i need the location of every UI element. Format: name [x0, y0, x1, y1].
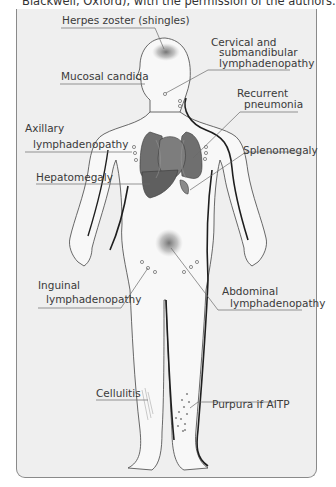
- label-axillary-line2: lymphadenopathy: [33, 138, 128, 151]
- label-cervical-line3: lymphadenopathy: [219, 57, 314, 70]
- label-inguinal-line2: lymphadenopathy: [46, 293, 141, 306]
- label-purpura: Purpura if AITP: [212, 398, 290, 411]
- label-herpes-zoster: Herpes zoster (shingles): [62, 14, 190, 27]
- abdominal-spot: [155, 229, 183, 257]
- label-pneumonia-line2: pneumonia: [244, 98, 303, 111]
- label-hepatomegaly: Hepatomegaly: [36, 171, 113, 184]
- label-mucosal-candida: Mucosal candida: [61, 70, 149, 83]
- herpes-zoster-spot: [152, 43, 180, 61]
- label-cellulitis: Cellulitis: [96, 387, 141, 400]
- label-abdominal-line2: lymphadenopathy: [230, 297, 325, 310]
- label-axillary-line1: Axillary: [25, 122, 64, 135]
- label-inguinal-line1: Inguinal: [38, 279, 80, 292]
- label-splenomegaly: Splenomegaly: [243, 144, 318, 157]
